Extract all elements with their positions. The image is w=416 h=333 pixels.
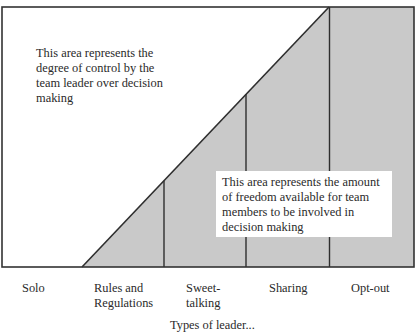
leader-control-note: This area represents the degree of contr… <box>36 46 186 106</box>
style-label-sharing: Sharing <box>269 281 308 296</box>
note-line: members to be involved in <box>222 205 392 220</box>
style-label-solo: Solo <box>22 281 45 296</box>
label-line: Rules and <box>94 281 153 296</box>
style-label-opt-out: Opt-out <box>351 281 390 296</box>
note-line: of freedom available for team <box>222 190 392 205</box>
team-freedom-note: This area represents the amount of freed… <box>216 171 392 237</box>
label-line: Sharing <box>269 281 308 296</box>
style-label-sweet-talking: Sweet- talking <box>186 281 220 311</box>
note-line: This area represents the amount <box>222 175 392 190</box>
label-line: Sweet- <box>186 281 220 296</box>
note-line: team leader over decision <box>36 76 186 91</box>
style-label-rules-and-regulations: Rules and Regulations <box>94 281 153 311</box>
label-line: talking <box>186 296 220 311</box>
note-line: making <box>36 91 186 106</box>
axis-caption-cutoff: Types of leader... <box>170 318 255 333</box>
label-line: Solo <box>22 281 45 296</box>
note-line: This area represents the <box>36 46 186 61</box>
label-line: Opt-out <box>351 281 390 296</box>
note-line: degree of control by the <box>36 61 186 76</box>
label-line: Regulations <box>94 296 153 311</box>
note-line: decision making <box>222 220 392 235</box>
